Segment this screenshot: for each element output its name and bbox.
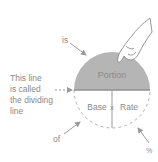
of-arrow: [64, 122, 80, 134]
portion-label: Portion: [98, 70, 127, 80]
portion-base-rate-diagram: Portion Base x Rate is of % This line is…: [0, 0, 158, 162]
percent-label: %: [146, 147, 152, 154]
dividing-line-note-4: line: [10, 106, 24, 116]
dividing-line-note-1: This line: [10, 73, 42, 83]
multiply-symbol: x: [110, 104, 114, 111]
dividing-line-note-2: is called: [10, 84, 41, 94]
base-label: Base: [87, 102, 107, 112]
pointing-hand-icon: [118, 18, 152, 62]
is-label: is: [62, 35, 68, 45]
dividing-line-note-3: the dividing: [10, 95, 53, 105]
of-label: of: [53, 134, 61, 144]
is-arrow: [70, 43, 86, 55]
rate-label: Rate: [120, 102, 138, 112]
percent-arrow: [138, 128, 149, 143]
